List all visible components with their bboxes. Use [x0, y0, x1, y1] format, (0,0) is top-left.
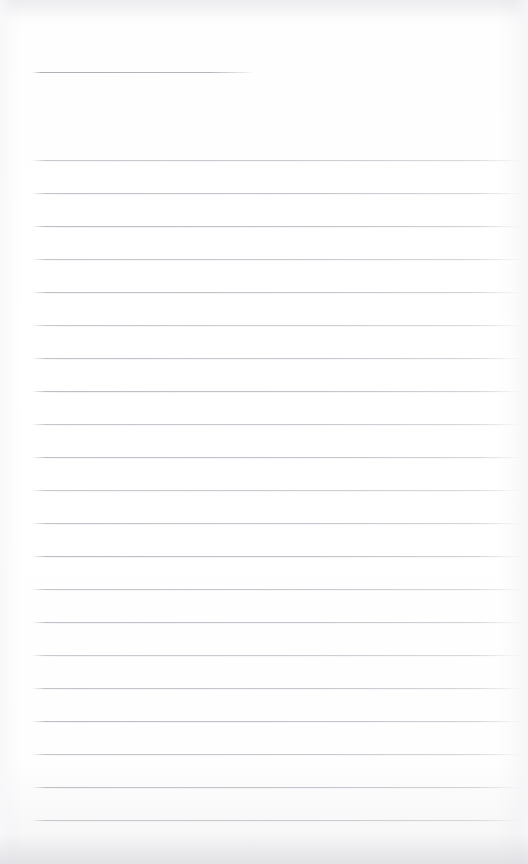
notebook-page [0, 0, 528, 864]
ruled-line [33, 292, 524, 293]
ruled-line [33, 787, 524, 788]
ruled-line [33, 688, 524, 689]
paper-surface [0, 0, 528, 864]
ruled-line [33, 589, 524, 590]
ruled-line [33, 160, 524, 161]
ruled-line [33, 358, 524, 359]
ruled-line [33, 754, 524, 755]
ruled-line [33, 391, 524, 392]
ruled-line [33, 523, 524, 524]
ruled-line [33, 226, 524, 227]
ruled-line [33, 325, 524, 326]
ruled-line [33, 424, 524, 425]
ruled-line [33, 721, 524, 722]
ruled-line [33, 259, 524, 260]
ruled-line [33, 655, 524, 656]
ruled-line [33, 556, 524, 557]
ruled-line [33, 820, 524, 821]
ruled-line [33, 193, 524, 194]
header-underline-rule [33, 72, 253, 73]
ruled-line [33, 490, 524, 491]
ruled-line [33, 622, 524, 623]
ruled-line [33, 457, 524, 458]
